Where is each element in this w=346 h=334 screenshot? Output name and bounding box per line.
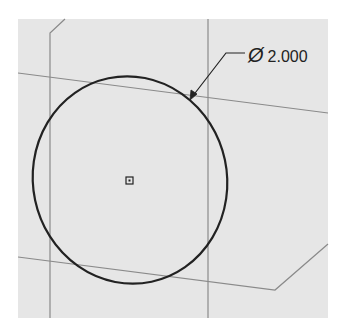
diameter-symbol-icon: Ø [248,44,264,67]
dimension-leader[interactable] [190,53,245,100]
top-plane-edge [18,73,328,113]
dimension-value: 2.000 [268,48,308,66]
left-vertical-edge [50,19,65,318]
bottom-plane-edge [18,244,328,290]
center-point-icon[interactable] [126,177,133,184]
diameter-dimension-label[interactable]: Ø 2.000 [248,44,308,67]
